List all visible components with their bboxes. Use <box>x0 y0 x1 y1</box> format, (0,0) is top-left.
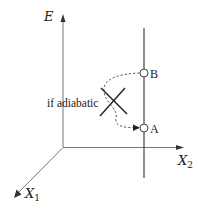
x1-axis-label: X1 <box>24 186 40 203</box>
x2-axis-arrow-icon <box>176 145 184 150</box>
point-a-label: A <box>150 122 159 136</box>
point-b-label: B <box>150 67 158 81</box>
adiabatic-annotation: if adiabatic <box>47 97 98 109</box>
x1-axis: X1 <box>14 148 63 204</box>
x2-axis: X2 <box>63 145 193 170</box>
point-a: A <box>140 122 159 136</box>
adiabatic-path <box>104 73 140 128</box>
forbidden-cross-icon <box>100 88 127 116</box>
path-arrow-icon <box>133 125 140 132</box>
e-axis: E <box>43 9 66 147</box>
energy-state-diagram: E X2 X1 B A if adiabatic <box>0 0 199 210</box>
e-axis-arrow-icon <box>61 14 66 22</box>
e-axis-label: E <box>43 9 54 24</box>
point-b: B <box>140 67 158 81</box>
x2-axis-label: X2 <box>177 153 193 170</box>
